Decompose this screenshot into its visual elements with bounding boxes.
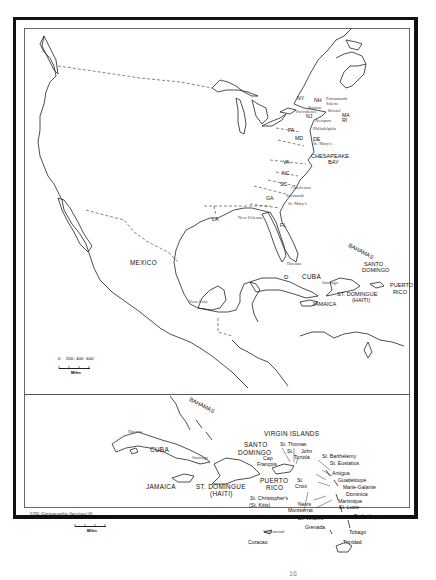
label-fl: FL [280,223,286,228]
label-guadeloupe: Guadeloupe [338,478,366,483]
label-dominica: Dominica [346,492,368,497]
label-antigua: Antigua [332,471,350,476]
us-canada-border [58,66,212,88]
label-md: MD [295,136,303,141]
label-rico-upper: RICO [393,290,407,296]
label-ri: RI [342,118,347,123]
city-philadelphia: Philadelphia [313,127,336,132]
scale-tick-400: 400 [76,356,83,361]
label-st-lucia: St. Lucie [339,505,359,510]
city-santiago-upper: Santiago [322,281,338,286]
city-santiago-lower: Santiago [192,456,208,461]
scale-tick-300: 300 [102,514,109,519]
label-va: VA [283,160,290,165]
mexico-border [86,210,178,262]
label-haiti-upper: (HAITI) [352,298,370,304]
label-puerto-upper: PUERTO [390,283,413,289]
central-america [232,340,288,386]
label-santo-lower: SANTO [244,442,267,448]
lake-michigan [236,98,246,134]
isle-of-pines [130,448,138,454]
florida [262,212,286,262]
label-st-christophers: St. Christopher's [250,496,288,501]
city-st-marys-md: St. Mary's [313,142,332,147]
central-america-borders [218,318,232,336]
scale-tick-200-lower: 200 [92,514,99,519]
label-st-croix-2: Croix [295,484,307,489]
page-mark: 16 [289,570,297,577]
puerto-rico-upper [370,282,384,288]
label-curacao: Curacao [248,540,268,545]
label-francois: François [257,462,277,467]
jamaica-lower [172,474,194,482]
label-cuba-lower: CUBA [150,447,169,453]
label-la: LA [212,217,218,222]
label-grenada: Grenada [305,525,325,530]
label-cuba-upper: CUBA [302,274,321,280]
label-nj: NJ [306,114,312,119]
label-sc: SC [280,182,287,187]
label-nc: NC [282,171,290,176]
lake-maracaibo [364,342,372,358]
cuba-upper [250,278,318,298]
lake-huron [252,100,268,124]
city-havana-upper: Havana [287,262,301,267]
label-d: D [284,274,288,280]
label-tortola: Tortola [294,455,310,460]
label-pa: PA [288,128,295,133]
hispaniola-lower [212,458,260,484]
label-marie-galante: Marie-Galante [343,485,376,490]
scale-unit: Miles [71,370,81,375]
scale-tick-600: 600 [86,356,93,361]
label-trinidad: Trinidad [343,540,362,545]
city-charleston: Charleston [291,186,311,191]
city-salem: Salem [326,102,337,107]
label-rico-lower: RICO [266,485,283,491]
label-st-barthelemy: St. Barthelemy [322,454,356,459]
label-jamaica-lower: JAMAICA [146,484,176,490]
city-willemstad: Willemstad [263,530,284,535]
city-vera-cruz: Vera Cruz [189,300,208,305]
city-providence: Providence [296,110,317,115]
scale-tick-200: 200 [66,356,73,361]
city-havana-lower: Havana [128,430,142,435]
city-new-orleans: New Orleans [238,216,262,221]
lake-superior [212,80,258,96]
label-tobago: Tobago [349,530,366,535]
south-america-coast [300,332,404,346]
label-nh: NH [314,98,322,103]
label-haiti-lower: (HAITI) [210,491,233,497]
label-jamaica-upper: JAMAICA [312,302,336,308]
label-st-john-1: St. [287,449,293,454]
label-montserrat: Montserrat [288,508,313,513]
newfoundland [346,40,362,50]
label-st-thomas: St. Thomas [280,442,306,447]
label-mexico: MEXICO [130,260,157,266]
city-st-marys-ga: St. Mary's [288,202,307,207]
label-st-eustatius: St. Eustatius [330,461,359,466]
label-chesapeake-bay: BAY [328,160,339,166]
label-st-vincent: St. Vincent [298,516,323,521]
scale-unit-lower: Miles [87,528,97,533]
city-savannah: Savannah [286,194,304,199]
scale-tick-0: 0 [58,356,60,361]
nova-scotia [336,52,366,88]
city-newport: Newport [315,119,331,124]
pacific-coast [38,36,248,388]
city-bristol: Bristol [328,109,341,114]
lake-ontario [280,108,296,114]
label-barbados: Barbados [354,514,376,519]
map-credit: UNL Cartographic Services/JS [30,511,92,516]
label-virgin-islands: VIRGIN ISLANDS [264,431,319,437]
label-domingo-upper: DOMINGO [362,268,389,274]
vancouver-island [42,36,58,74]
label-ny: NY [297,96,304,101]
label-ga: GA [266,196,274,201]
label-st-kitts: (St. Kitts) [249,503,270,508]
yucatan [198,286,226,310]
